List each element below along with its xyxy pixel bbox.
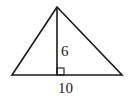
base-label: 10: [58, 80, 73, 96]
triangle-outline: [12, 7, 122, 75]
height-label: 6: [61, 43, 69, 59]
right-angle-marker: [57, 68, 64, 75]
triangle-diagram: 6 10: [0, 0, 130, 101]
